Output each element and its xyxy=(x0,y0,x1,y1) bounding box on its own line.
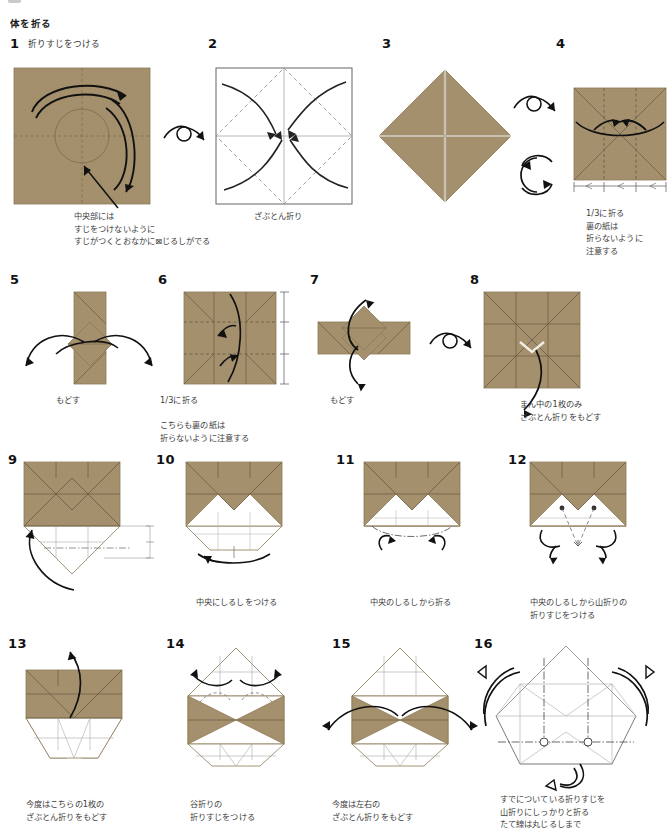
step-caption-13: 今度はこちらの1枚の ざぶとん折りをもどす xyxy=(26,798,107,823)
step-number-15: 15 xyxy=(332,636,351,651)
figure-step-9 xyxy=(24,462,174,597)
figure-step-3 xyxy=(375,66,515,206)
figure-step-11 xyxy=(364,462,474,582)
step-number-2: 2 xyxy=(208,36,218,51)
step-number-12: 12 xyxy=(508,452,527,467)
step-caption-14: 谷折りの 折りすじをつける xyxy=(190,798,255,823)
step-number-9: 9 xyxy=(8,452,18,467)
figure-step-13 xyxy=(26,670,136,785)
rotate-icon-1 xyxy=(516,152,558,198)
step-number-11: 11 xyxy=(336,452,355,467)
figure-step-1 xyxy=(14,68,154,210)
turn-over-icon-3 xyxy=(428,330,476,358)
turn-over-icon-2 xyxy=(512,92,560,122)
step-number-5: 5 xyxy=(10,272,20,287)
step-caption-2: ざぶとん折り xyxy=(254,210,303,223)
step-number-1: 1 xyxy=(10,36,20,51)
step-number-10: 10 xyxy=(156,452,175,467)
step-caption-8: まん中の1枚のみ ざぶとん折りをもどす xyxy=(520,398,601,423)
step-number-14: 14 xyxy=(166,636,185,651)
crop-mark xyxy=(8,0,21,3)
step-number-6: 6 xyxy=(158,272,168,287)
step-caption-15: 今度は左右の ざぶとん折りをもどす xyxy=(332,798,413,823)
step-caption-4: 1/3に折る 裏の紙は 折らないように 注意する xyxy=(586,207,643,257)
step-caption-12: 中央のしるしから山折りの 折りすじをつける xyxy=(530,596,627,621)
step-number-13: 13 xyxy=(8,636,27,651)
step-caption-6: 1/3に折る こちらも裏の紙は 折らないように注意する xyxy=(160,394,249,444)
step-caption-5: もどす xyxy=(56,394,80,407)
step-caption-16: すでについている折りすじを 山折りにしっかりと折る たて線は丸じるしまで xyxy=(500,793,605,831)
step-number-4: 4 xyxy=(556,36,566,51)
step-heading-1: 折りすじをつける xyxy=(28,38,100,50)
figure-step-4 xyxy=(572,88,669,198)
step-caption-1: 中央部には すじをつけないように すじがつくとおなかに⊠じるしがでる xyxy=(74,210,211,248)
figure-step-16 xyxy=(490,644,660,784)
step-number-3: 3 xyxy=(382,36,392,51)
figure-step-14 xyxy=(188,648,303,788)
step-number-8: 8 xyxy=(470,272,480,287)
figure-step-7 xyxy=(318,296,428,396)
step-caption-10: 中央にしるしをつける xyxy=(196,596,277,609)
figure-step-2 xyxy=(216,68,356,208)
step-number-7: 7 xyxy=(310,272,320,287)
figure-step-6 xyxy=(184,292,294,392)
figure-step-12 xyxy=(530,462,645,582)
page-title: 体を折る xyxy=(10,16,51,30)
turn-over-icon-1 xyxy=(162,120,208,150)
step-caption-11: 中央のしるしから折る xyxy=(370,596,451,609)
origami-instruction-page: 体を折る 1 折りすじをつける 中央部には すじをつけないように すじがつくとお… xyxy=(0,0,669,836)
figure-step-5 xyxy=(18,292,168,388)
figure-step-8 xyxy=(484,292,604,402)
step-caption-7: もどす xyxy=(330,394,354,407)
figure-step-15 xyxy=(352,648,467,788)
figure-step-10 xyxy=(186,462,296,577)
